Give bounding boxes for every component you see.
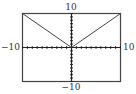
- graph-viewport: [0, 0, 136, 94]
